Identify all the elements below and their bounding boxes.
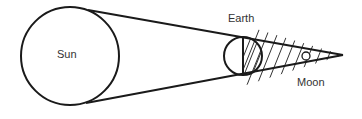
- solar-eclipse-diagram: Sun Earth Moon: [0, 0, 362, 119]
- earth-label: Earth: [228, 12, 254, 24]
- earth-night-hatching: [230, 25, 280, 90]
- moon-label: Moon: [297, 76, 325, 88]
- moon-circle: [302, 52, 310, 60]
- sun-label: Sun: [57, 48, 77, 60]
- upper-tangent-line: [88, 10, 343, 55]
- diagram-graphic: [0, 0, 362, 119]
